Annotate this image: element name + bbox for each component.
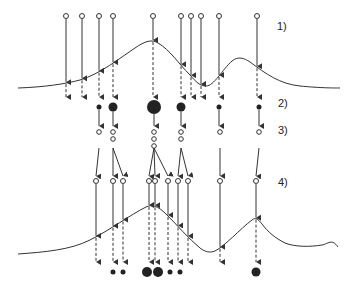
predicted-particle-icon [186, 179, 191, 184]
predicted-particle-icon [121, 179, 126, 184]
final-weight-dot-icon [178, 270, 183, 275]
final-weight-dot-icon [153, 267, 163, 277]
weight-dot-icon [147, 100, 161, 114]
predicted-particle-icon [111, 179, 116, 184]
predicted-particle-icon [254, 179, 259, 184]
stage-1-arrows [64, 14, 260, 98]
predicted-particle-icon [176, 179, 181, 184]
weight-dot-icon [217, 105, 222, 110]
stage-3-resampled [97, 130, 262, 149]
predicted-particle-icon [153, 179, 158, 184]
label-step-1: 1) [277, 20, 287, 32]
label-step-3: 3) [278, 124, 288, 136]
particle-icon [217, 14, 222, 19]
stage-5-weights [111, 267, 261, 277]
final-weight-dot-icon [111, 270, 116, 275]
particle-icon [255, 14, 260, 19]
resampled-particle-icon [152, 137, 157, 142]
resampled-particle-icon [111, 130, 116, 135]
stage-4-arrows [94, 148, 260, 262]
particle-icon [179, 14, 184, 19]
weight-dot-icon [177, 103, 186, 112]
predicted-particle-icon [94, 179, 99, 184]
particle-icon [151, 14, 156, 19]
resampled-particle-icon [152, 144, 157, 149]
resampled-particle-icon [152, 130, 157, 135]
label-step-4: 4) [278, 176, 288, 188]
final-weight-dot-icon [168, 270, 173, 275]
weight-dot-icon [257, 105, 262, 110]
particle-icon [64, 14, 69, 19]
predicted-particle-icon [147, 179, 152, 184]
weight-dot-icon [109, 103, 118, 112]
resampled-particle-icon [179, 130, 184, 135]
particle-icon [80, 14, 85, 19]
particle-icon [97, 14, 102, 19]
resampled-particle-icon [179, 137, 184, 142]
final-weight-dot-icon [252, 268, 261, 277]
particle-filter-diagram [0, 0, 354, 289]
final-weight-dot-icon [142, 267, 152, 277]
predicted-particle-icon [218, 179, 223, 184]
label-step-2: 2) [278, 97, 288, 109]
resampled-particle-icon [218, 130, 223, 135]
stage-2-weights [97, 100, 262, 126]
particle-icon [199, 14, 204, 19]
predicted-particle-icon [166, 179, 171, 184]
resampled-particle-icon [111, 137, 116, 142]
particle-icon [111, 14, 116, 19]
particle-icon [189, 14, 194, 19]
final-weight-dot-icon [121, 270, 126, 275]
resampled-particle-icon [257, 130, 262, 135]
resampled-particle-icon [97, 130, 102, 135]
weight-dot-icon [97, 105, 102, 110]
